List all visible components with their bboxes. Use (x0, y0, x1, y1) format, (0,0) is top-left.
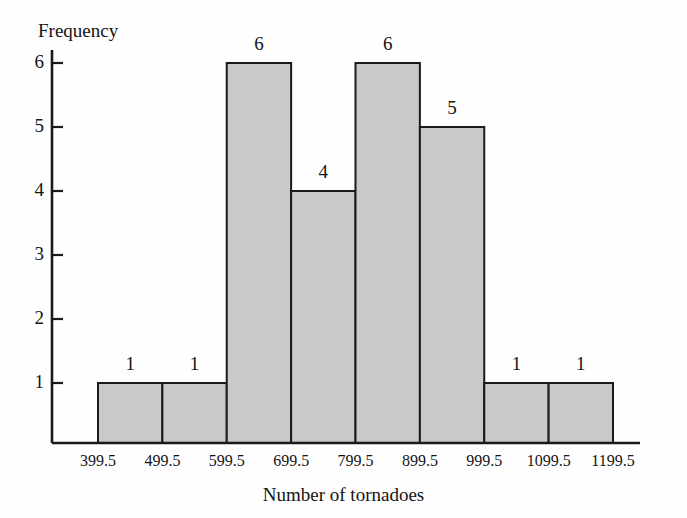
bar-value-label: 1 (100, 353, 160, 375)
histogram-bar (98, 383, 162, 443)
histogram-bar (484, 383, 548, 443)
y-axis-tick-label: 6 (18, 51, 44, 73)
histogram-bar (356, 63, 420, 443)
histogram-bar (162, 383, 226, 443)
histogram-bar (227, 63, 291, 443)
y-axis-tick-label: 2 (18, 307, 44, 329)
x-axis-title: Number of tornadoes (0, 484, 687, 506)
histogram-bar (291, 191, 355, 443)
bar-value-label: 1 (165, 353, 225, 375)
y-axis-tick-label: 5 (18, 115, 44, 137)
histogram-bar (420, 127, 484, 443)
y-axis-tick-label: 4 (18, 179, 44, 201)
y-axis-tick-label: 1 (18, 371, 44, 393)
bar-value-label: 5 (422, 97, 482, 119)
bar-value-label: 6 (358, 33, 418, 55)
y-axis-tick-label: 3 (18, 243, 44, 265)
histogram-plot-area (0, 0, 687, 518)
bar-value-label: 6 (229, 33, 289, 55)
x-axis-tick-label: 1199.5 (568, 452, 658, 470)
bars-group (98, 63, 613, 443)
bar-value-label: 1 (486, 353, 546, 375)
bar-value-label: 1 (551, 353, 611, 375)
bar-value-label: 4 (293, 161, 353, 183)
histogram-bar (549, 383, 613, 443)
histogram-figure: Frequency 123456 399.5499.5599.5699.5799… (0, 0, 687, 518)
